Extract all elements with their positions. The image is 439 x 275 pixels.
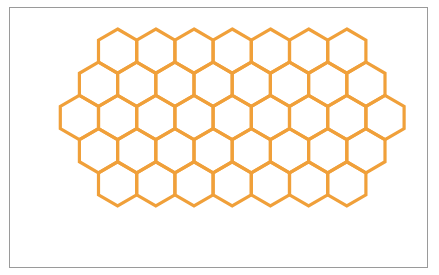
hexagon-cell <box>137 162 175 206</box>
honeycomb-grid <box>0 0 439 275</box>
hexagon-cell <box>290 162 328 206</box>
hexagon-cell <box>175 162 213 206</box>
hexagon-cell <box>328 162 366 206</box>
figure-canvas <box>0 0 439 275</box>
hexagon-cell <box>213 162 251 206</box>
hexagon-cell <box>251 162 289 206</box>
hexagon-cell <box>99 162 137 206</box>
hexagon-layer <box>60 29 404 206</box>
